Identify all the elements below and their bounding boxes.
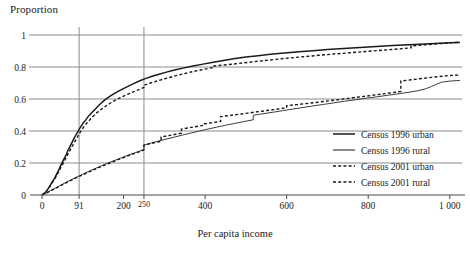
x-tick-label: 91 (74, 201, 84, 211)
x-tick-label: 250 (138, 200, 150, 209)
chart-svg: 0912002504006008001 000 00.20.40.60.81 C… (0, 0, 470, 256)
x-tick-label: 800 (361, 201, 376, 211)
x-tick-label: 1 000 (439, 201, 461, 211)
y-axis-ticks: 00.20.40.60.81 (14, 31, 42, 201)
legend-label-0: Census 1996 urban (361, 130, 434, 140)
x-axis-title: Per capita income (0, 228, 470, 239)
x-tick-label: 200 (116, 201, 131, 211)
series-line-0 (42, 43, 460, 195)
x-tick-label: 600 (280, 201, 295, 211)
x-tick-label: 0 (40, 201, 45, 211)
x-tick-label: 400 (198, 201, 213, 211)
series-line-2 (42, 42, 460, 195)
y-tick-label: 0.2 (14, 159, 26, 169)
chart-legend: Census 1996 urbanCensus 1996 ruralCensus… (333, 130, 434, 188)
chart-container: Proportion 0912002504006008001 000 00.20… (0, 0, 470, 256)
legend-label-1: Census 1996 rural (361, 146, 430, 156)
y-tick-label: 0.4 (14, 127, 26, 137)
y-tick-label: 0.6 (14, 95, 26, 105)
y-tick-label: 1 (21, 31, 26, 41)
y-tick-label: 0 (21, 191, 26, 201)
legend-label-2: Census 2001 urban (361, 162, 434, 172)
x-axis-ticks: 0912002504006008001 000 (40, 195, 461, 211)
series-lines (42, 42, 460, 195)
legend-label-3: Census 2001 rural (361, 178, 430, 188)
y-tick-label: 0.8 (14, 63, 26, 73)
